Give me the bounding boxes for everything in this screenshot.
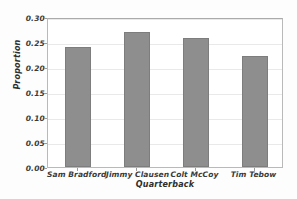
x-axis-tick-mark	[77, 168, 78, 171]
y-axis-tick-mark	[44, 43, 47, 44]
bar-chart: 0.000.050.100.150.200.250.30 Sam Bradfor…	[0, 0, 297, 199]
y-axis-tick-label: 0.25	[0, 39, 45, 48]
x-axis-tick-mark	[254, 168, 255, 171]
y-axis-tick-mark	[44, 18, 47, 19]
x-axis-tick-label: Jimmy Clausen	[106, 170, 165, 179]
y-axis-tick-mark	[44, 68, 47, 69]
y-axis-tick-label: 0.30	[0, 14, 45, 23]
plot-area	[47, 18, 283, 168]
y-axis-tick-label: 0.00	[0, 164, 45, 173]
y-axis-tick-label: 0.20	[0, 64, 45, 73]
bar-series	[48, 19, 282, 167]
x-axis-tick-mark	[136, 168, 137, 171]
y-axis-tick-label: 0.15	[0, 89, 45, 98]
y-axis-tick-label: 0.05	[0, 139, 45, 148]
bar	[183, 38, 209, 167]
bar	[65, 47, 91, 167]
y-axis-tick-label: 0.10	[0, 114, 45, 123]
y-axis-tick-mark	[44, 143, 47, 144]
x-axis-tick-mark	[195, 168, 196, 171]
y-axis-title: Proportion	[13, 15, 22, 115]
x-axis-title: Quarterback	[47, 180, 283, 189]
x-axis-tick-label: Sam Bradford	[47, 170, 106, 179]
bar	[124, 32, 150, 167]
y-axis-tick-mark	[44, 168, 47, 169]
y-axis-tick-mark	[44, 118, 47, 119]
x-axis-tick-label: Colt McCoy	[165, 170, 224, 179]
y-axis-tick-mark	[44, 93, 47, 94]
bar	[242, 56, 268, 167]
x-axis-tick-label: Tim Tebow	[224, 170, 283, 179]
